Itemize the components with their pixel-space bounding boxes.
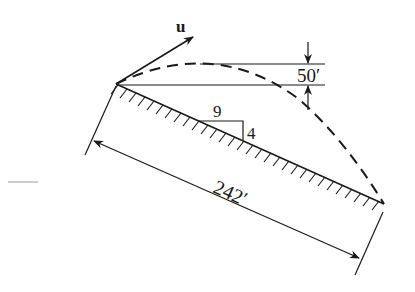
velocity-label: u (176, 17, 185, 36)
distance-label: 242′ (210, 176, 250, 210)
max-height-label: 50′ (297, 65, 320, 86)
velocity-vector-arrow (116, 37, 193, 84)
extension-line-right (355, 212, 383, 275)
slope-rise-label: 4 (247, 124, 256, 143)
extension-line-left (85, 86, 116, 155)
projectile-diagram: u 50′ 9 4 242′ (0, 0, 415, 292)
incline-surface (116, 84, 384, 204)
slope-run-label: 9 (213, 102, 222, 121)
